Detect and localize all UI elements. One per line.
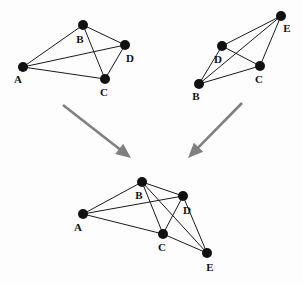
node-label-c: C (158, 241, 166, 253)
node-dot-c (158, 229, 168, 239)
arrow-right-shaft (196, 103, 242, 150)
graph-node: C (255, 61, 265, 85)
node-label-a: A (74, 221, 82, 233)
graph-bottom-merged: ABCDE (74, 177, 214, 273)
graph-node: C (100, 74, 110, 98)
graph-edge (105, 45, 125, 79)
node-label-e: E (206, 261, 213, 273)
node-label-c: C (255, 73, 263, 85)
arrows-layer (63, 103, 242, 158)
node-dot-b (137, 177, 147, 187)
node-dot-a (78, 209, 88, 219)
graph-node: D (214, 41, 227, 65)
node-dot-b (78, 20, 88, 30)
node-label-c: C (100, 86, 108, 98)
node-dot-a (18, 62, 28, 72)
graph-node: C (158, 229, 168, 253)
graph-edge (222, 16, 281, 46)
graph-node: A (74, 209, 88, 233)
graph-node: A (14, 62, 28, 85)
graphs-layer: ABCDBCDEABCDE (14, 11, 291, 273)
graph-top-left-edges (23, 25, 125, 79)
node-dot-d (217, 41, 227, 51)
graph-bottom-merged-edges (83, 182, 207, 253)
graph-top-right: BCDE (192, 11, 290, 102)
arrow-left (63, 105, 131, 158)
node-label-d: D (126, 52, 134, 64)
figure-canvas: ABCDBCDEABCDE (0, 0, 303, 284)
node-label-b: B (135, 189, 143, 201)
node-label-b: B (192, 90, 200, 102)
graph-edge (163, 196, 183, 234)
graph-node: B (192, 79, 204, 102)
node-label-a: A (14, 73, 22, 85)
graph-edge (83, 182, 142, 214)
arrow-right (188, 103, 242, 158)
graph-edge (83, 214, 163, 234)
node-dot-e (276, 11, 286, 21)
node-label-d: D (183, 204, 191, 216)
node-dot-b (194, 79, 204, 89)
graph-top-left: ABCD (14, 20, 134, 98)
node-label-e: E (283, 22, 290, 34)
arrow-left-head (115, 144, 131, 158)
graph-union-figure: ABCDBCDEABCDE (0, 0, 303, 284)
graph-edge (199, 16, 281, 84)
graph-node: D (178, 191, 191, 216)
graph-edge (83, 25, 125, 45)
node-dot-d (178, 191, 188, 201)
graph-edge (83, 25, 105, 79)
graph-edge (260, 16, 281, 66)
node-label-d: D (214, 53, 222, 65)
graph-edge (142, 182, 163, 234)
graph-edge (83, 196, 183, 214)
node-dot-e (202, 248, 212, 258)
graph-top-right-edges (199, 16, 281, 84)
node-dot-d (120, 40, 130, 50)
node-dot-c (255, 61, 265, 71)
graph-edge (23, 67, 105, 79)
graph-node: D (120, 40, 134, 64)
node-dot-c (100, 74, 110, 84)
node-label-b: B (76, 33, 84, 45)
graph-node: E (202, 248, 214, 273)
arrow-left-shaft (63, 105, 122, 151)
